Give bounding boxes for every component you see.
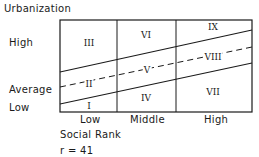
cell-I: I: [87, 101, 91, 111]
x-category-middle: Middle: [130, 114, 165, 126]
cell-IX: IX: [208, 22, 218, 32]
cell-II: II: [84, 79, 93, 89]
cell-V: V: [143, 65, 152, 75]
correlation-label: r = 41: [60, 145, 93, 157]
x-category-high: High: [204, 114, 228, 126]
cell-VI: VI: [141, 30, 151, 40]
cell-IV: IV: [141, 93, 151, 103]
x-category-low: Low: [80, 114, 101, 126]
y-level-high: High: [9, 37, 33, 49]
cell-VIII: VIII: [203, 52, 222, 62]
cell-III: III: [84, 38, 95, 48]
y-axis-title: Urbanization: [4, 3, 71, 15]
upper-boundary-line: [60, 30, 252, 72]
x-axis-title: Social Rank: [60, 129, 121, 141]
typology-diagram: [0, 0, 259, 157]
cell-VII: VII: [206, 87, 220, 97]
y-level-average: Average: [9, 84, 52, 96]
y-level-low: Low: [9, 102, 30, 114]
